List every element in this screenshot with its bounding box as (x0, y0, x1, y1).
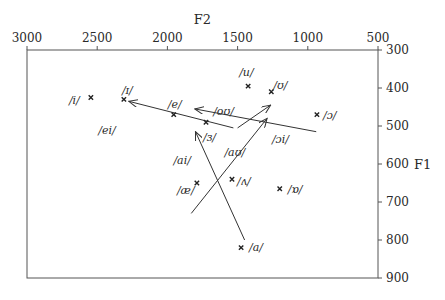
diphthong-label: /aʊ/ (223, 146, 246, 159)
arrow-icon (238, 105, 271, 128)
x-axis-f2: 30002500200015001000500 (12, 31, 390, 50)
cross-marker-icon (230, 177, 234, 181)
vowel-point: /ɪ/ (121, 84, 134, 101)
y-tick-label: 900 (386, 271, 409, 285)
plot-frame (27, 50, 378, 278)
vowel-label: /æ/ (176, 184, 196, 197)
x-axis-title: F2 (194, 12, 211, 27)
x-tick-label: 1500 (222, 31, 253, 45)
cross-marker-icon (278, 187, 282, 191)
vowel-label: /ɪ/ (121, 84, 134, 97)
diphthong-label: /ei/ (97, 124, 117, 137)
vowel-label: /ɜ/ (202, 131, 217, 144)
y-tick-label: 400 (386, 81, 409, 95)
x-tick-label: 3000 (12, 31, 43, 45)
cross-marker-icon (239, 245, 243, 249)
y-tick-label: 800 (386, 233, 409, 247)
diphthong-label: /ai/ (172, 154, 192, 167)
cross-marker-icon (122, 97, 126, 101)
vowel-formant-chart: 30002500200015001000500 3004005006007008… (0, 0, 445, 300)
vowel-label: /ɔ/ (322, 109, 338, 122)
vowel-point: /ɔ/ (315, 109, 338, 122)
vowel-label: /i/ (68, 94, 81, 107)
vowel-point: /ʊ/ (269, 79, 289, 94)
arrow-icon (195, 109, 316, 132)
vowel-point: /i/ (68, 94, 93, 107)
vowel-point: /a/ (239, 241, 264, 254)
vowel-point: /ɒ/ (278, 183, 304, 196)
vowel-label: /ʌ/ (236, 175, 252, 188)
y-axis-title: F1 (414, 157, 431, 172)
x-tick-label: 2000 (152, 31, 183, 45)
y-axis-f1: 300400500600700800900 (378, 43, 409, 285)
vowel-point: /e/ (167, 98, 183, 117)
plot-border (27, 50, 378, 278)
vowel-label: /u/ (238, 66, 255, 79)
vowel-label: /a/ (248, 241, 264, 254)
vowel-point: /æ/ (176, 181, 199, 197)
vowel-point: /u/ (238, 66, 255, 88)
diphthong-label: /ɔi/ (271, 133, 290, 146)
y-tick-label: 600 (386, 157, 409, 171)
cross-marker-icon (315, 112, 319, 116)
y-tick-label: 700 (386, 195, 409, 209)
y-tick-label: 300 (386, 43, 409, 57)
x-tick-label: 1000 (293, 31, 324, 45)
vowel-point: /ʌ/ (230, 175, 252, 188)
y-tick-label: 500 (386, 119, 409, 133)
vowel-label: /ɒ/ (287, 183, 304, 196)
vowel-points: /i//ɪ//e//ɜ//u//ʊ//ɔ//æ//ʌ//ɒ//a/ (68, 66, 338, 254)
cross-marker-icon (246, 84, 250, 88)
cross-marker-icon (195, 181, 199, 185)
x-tick-label: 2500 (82, 31, 113, 45)
vowel-label: /e/ (167, 98, 183, 111)
vowel-label: /ʊ/ (272, 79, 289, 92)
cross-marker-icon (89, 95, 93, 99)
